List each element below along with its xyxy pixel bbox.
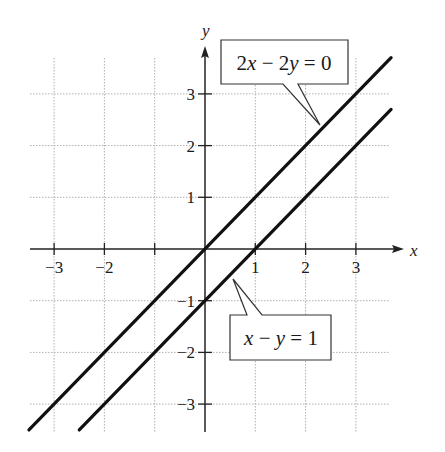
x-tick-label: 1 [251,258,260,277]
callout-label: 2x − 2y = 0 [237,51,332,75]
x-tick-label: −3 [45,258,63,277]
callout-label: x − y = 1 [243,326,318,350]
y-tick-label: 1 [187,188,196,207]
plot-lines [29,58,391,430]
x-tick-label: −2 [95,258,113,277]
callout-x-y-1: x − y = 1 [230,279,331,360]
x-tick-label: 3 [352,258,361,277]
y-tick-label: 3 [187,85,196,104]
callout-2x-2y-0: 2x − 2y = 0 [221,40,348,125]
series-line [29,58,391,430]
y-tick-label: −3 [177,395,195,414]
x-tick-label: 2 [301,258,310,277]
y-tick-label: −1 [177,292,195,311]
x-axis-label: x [409,241,418,260]
y-tick-label: −2 [177,343,195,362]
series-line [79,109,391,430]
y-tick-label: 2 [187,137,196,156]
callouts: 2x − 2y = 0x − y = 1 [221,40,348,360]
chart: −3−2123−3−2−1123 2x − 2y = 0x − y = 1 x … [0,0,445,452]
y-axis-label: y [200,21,210,40]
